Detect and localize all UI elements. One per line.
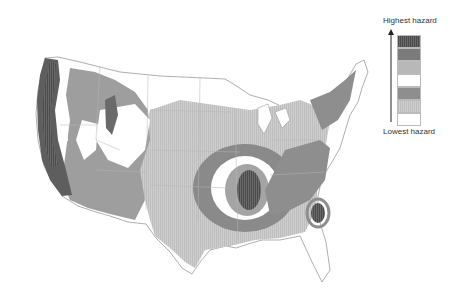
- hazard-zone-charleston: [311, 203, 325, 223]
- legend-swatch-3: [397, 87, 421, 100]
- legend-swatch-7: [397, 35, 421, 48]
- hazard-direction-arrow: [387, 28, 395, 124]
- legend-swatch-2: [397, 100, 421, 113]
- legend-swatch-6: [397, 48, 421, 61]
- hazard-zone-newmadrid-core: [237, 170, 261, 210]
- legend-top-label: Highest hazard: [383, 16, 437, 25]
- legend-swatch-1: [397, 113, 421, 126]
- legend-swatch-5: [397, 61, 421, 74]
- legend-bottom-label: Lowest hazard: [383, 127, 435, 136]
- legend-swatch-4: [397, 74, 421, 87]
